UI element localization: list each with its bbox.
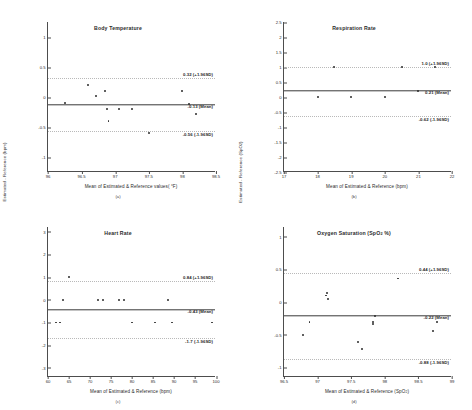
plot-area: 10.50-0.5-196.59797.59898.5990.44 (+1.96… bbox=[283, 227, 451, 377]
plot-area: 10.50-0.5-19696.59797.59898.50.32 (+1.96… bbox=[47, 22, 215, 172]
x-axis-tick: 95 bbox=[193, 376, 198, 384]
plot-area: 3210-1-2-360657075808590951000.84 (+1.96… bbox=[47, 227, 215, 377]
data-point bbox=[167, 299, 169, 301]
y-axis-tick: 1 bbox=[279, 234, 284, 239]
upper-loa-line bbox=[284, 67, 451, 68]
data-point bbox=[59, 322, 61, 324]
upper-loa-line bbox=[284, 273, 451, 274]
y-axis-tick: 2 bbox=[279, 35, 284, 40]
panel-letter: (d) bbox=[236, 399, 472, 404]
x-axis-tick: 90 bbox=[172, 376, 177, 384]
y-axis-tick: -3 bbox=[42, 365, 48, 370]
y-axis-tick: 1 bbox=[43, 35, 48, 40]
data-point bbox=[181, 90, 183, 92]
y-axis-label: Estimated - Reference (bpm) bbox=[238, 0, 248, 42]
panel-letter: (c) bbox=[0, 399, 236, 404]
y-axis-tick: -1.5 bbox=[274, 140, 284, 145]
chart-panel-1: Body TemperatureEstimated - Reference ( … bbox=[0, 0, 236, 205]
upper-loa-annotation: 0.44 (+1.96SD) bbox=[419, 267, 449, 272]
data-point bbox=[327, 298, 329, 300]
data-point bbox=[62, 299, 64, 301]
data-point bbox=[302, 334, 304, 336]
y-axis-tick: 0 bbox=[43, 297, 48, 302]
x-axis-tick: 97 bbox=[113, 171, 118, 179]
data-point bbox=[102, 299, 104, 301]
chart-panel-3: Heart RateEstimated - Reference (bpm)Mea… bbox=[0, 205, 236, 410]
y-axis-tick: 1 bbox=[43, 275, 48, 280]
y-axis-tick: -0.5 bbox=[38, 125, 48, 130]
data-point bbox=[350, 96, 352, 98]
y-axis-tick: 0.5 bbox=[40, 65, 48, 70]
chart-panel-2: Respiration RateEstimated - Reference (b… bbox=[236, 0, 472, 205]
data-point bbox=[195, 113, 197, 115]
data-point bbox=[108, 120, 110, 122]
x-axis-tick: 18 bbox=[315, 171, 320, 179]
chart-panel-4: Oxygen Saturation (SpO2 %)Estimated - Re… bbox=[236, 205, 472, 410]
lower-loa-annotation: -0.56 (-1.96SD) bbox=[183, 132, 213, 137]
y-axis-label: Estimated - Reference (SpO2) bbox=[238, 97, 248, 247]
x-axis-tick: 22 bbox=[450, 171, 455, 179]
plot-area: 2.521.510.50-0.5-1-1.5-2-2.5171819202122… bbox=[283, 22, 451, 172]
data-point bbox=[55, 322, 57, 324]
data-point bbox=[131, 322, 133, 324]
y-axis-tick: -1 bbox=[42, 155, 48, 160]
panel-letter: (b) bbox=[236, 194, 472, 199]
upper-loa-line bbox=[48, 78, 215, 79]
data-point bbox=[309, 321, 311, 323]
data-point bbox=[64, 102, 66, 104]
data-point bbox=[97, 299, 99, 301]
data-point bbox=[123, 299, 125, 301]
lower-loa-annotation: -1.7 (-1.96SD) bbox=[185, 339, 213, 344]
y-axis-tick: 0 bbox=[279, 300, 284, 305]
x-axis-tick: 80 bbox=[130, 376, 135, 384]
lower-loa-annotation: -0.88 (-1.96SD) bbox=[419, 360, 449, 365]
x-axis-tick: 99 bbox=[450, 376, 455, 384]
x-axis-tick: 97 bbox=[315, 376, 320, 384]
mean-annotation: 0.21 (Mean) bbox=[425, 90, 449, 95]
mean-annotation: -0.22 (Mean) bbox=[424, 315, 449, 320]
data-point bbox=[118, 108, 120, 110]
y-axis-tick: 2 bbox=[43, 252, 48, 257]
data-point bbox=[148, 132, 150, 134]
y-axis-label: Estimated - Reference ( °F) bbox=[2, 0, 12, 42]
data-point bbox=[87, 84, 89, 86]
x-axis-label: Mean of Estimated & Reference (bpm) bbox=[276, 184, 458, 189]
data-point bbox=[384, 96, 386, 98]
data-point bbox=[106, 108, 108, 110]
data-point bbox=[401, 66, 403, 68]
y-axis-tick: 0 bbox=[279, 95, 284, 100]
data-point bbox=[154, 322, 156, 324]
x-axis-label: Mean of Estimated & Reference (bpm) bbox=[40, 389, 222, 394]
x-axis-tick: 97.5 bbox=[145, 171, 153, 179]
data-point bbox=[211, 322, 213, 324]
data-point bbox=[397, 278, 399, 280]
data-point bbox=[95, 95, 97, 97]
x-axis-tick: 60 bbox=[46, 376, 51, 384]
data-point bbox=[68, 276, 70, 278]
data-point bbox=[325, 295, 327, 297]
upper-loa-line bbox=[48, 281, 215, 282]
data-point bbox=[131, 108, 133, 110]
y-axis-tick: -1 bbox=[278, 125, 284, 130]
data-point bbox=[357, 341, 359, 343]
y-axis-tick: -2 bbox=[42, 343, 48, 348]
mean-annotation: -0.43 (Mean) bbox=[188, 309, 213, 314]
y-axis-tick: -0.5 bbox=[274, 110, 284, 115]
x-axis-tick: 85 bbox=[151, 376, 156, 384]
x-axis-tick: 21 bbox=[416, 171, 421, 179]
data-point bbox=[118, 299, 120, 301]
bland-altman-figure: Body TemperatureEstimated - Reference ( … bbox=[0, 0, 472, 410]
upper-loa-annotation: 0.32 (+1.96SD) bbox=[183, 72, 213, 77]
y-axis-tick: -0.5 bbox=[274, 332, 284, 337]
data-point bbox=[436, 321, 438, 323]
x-axis-tick: 96.5 bbox=[78, 171, 86, 179]
lower-loa-annotation: -0.62 (-1.96SD) bbox=[419, 117, 449, 122]
data-point bbox=[432, 330, 434, 332]
y-axis-tick: -1 bbox=[42, 320, 48, 325]
data-point bbox=[361, 348, 363, 350]
data-point bbox=[372, 321, 374, 323]
x-axis-tick: 75 bbox=[109, 376, 114, 384]
y-axis-tick: -1 bbox=[278, 365, 284, 370]
x-axis-tick: 65 bbox=[67, 376, 72, 384]
data-point bbox=[171, 322, 173, 324]
